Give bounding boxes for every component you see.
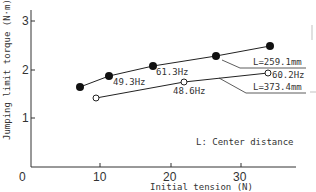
y-tick-label: 2 (22, 63, 29, 77)
freq-label: 60.2Hz (272, 70, 305, 80)
freq-label: 48.6Hz (173, 86, 206, 96)
data-point (76, 83, 84, 91)
data-point (265, 70, 271, 76)
x-tick-label: 0 (19, 170, 26, 184)
data-point (93, 95, 99, 101)
y-axis-title: Jumping limit torque (N·m) (2, 0, 12, 140)
freq-label: 61.3Hz (156, 67, 189, 77)
x-tick-label: 10 (93, 170, 107, 184)
jumping-torque-chart: 3 2 1 0 10 20 30 Initial tension (N) Jum… (0, 0, 316, 192)
data-point (212, 52, 220, 60)
y-tick-label: 1 (22, 111, 29, 125)
series-label: L=373.4mm (253, 82, 302, 92)
freq-label: 49.3Hz (113, 77, 146, 87)
series-label: L=259.1mm (253, 57, 302, 67)
data-point (105, 72, 113, 80)
center-distance-note: L: Center distance (196, 137, 294, 147)
data-point (266, 42, 274, 50)
data-point (181, 79, 187, 85)
y-tick-label: 3 (22, 14, 29, 28)
x-axis-title: Initial tension (N) (150, 182, 253, 192)
